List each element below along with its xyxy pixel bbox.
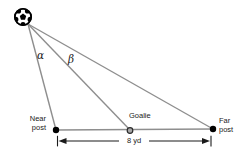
far-post-dot: [210, 126, 216, 132]
goal-line: [56, 129, 213, 130]
near-post-label: Near post: [16, 115, 46, 132]
angle-beta-label: β: [68, 54, 74, 65]
sight-line-far-post: [28, 24, 213, 129]
angle-alpha-label: α: [37, 50, 44, 61]
goalie-label: Goalie: [129, 112, 151, 121]
distance-label: 8 yd: [120, 137, 148, 146]
goal-angle-diagram: Near post Goalie Far post 8 yd α β: [0, 0, 248, 158]
near-post-dot: [53, 127, 59, 133]
far-post-label: Far post: [219, 116, 233, 134]
dimension-arrow-right: [202, 138, 210, 144]
diagram-canvas: [0, 0, 248, 158]
goalie-dot: [127, 128, 133, 134]
